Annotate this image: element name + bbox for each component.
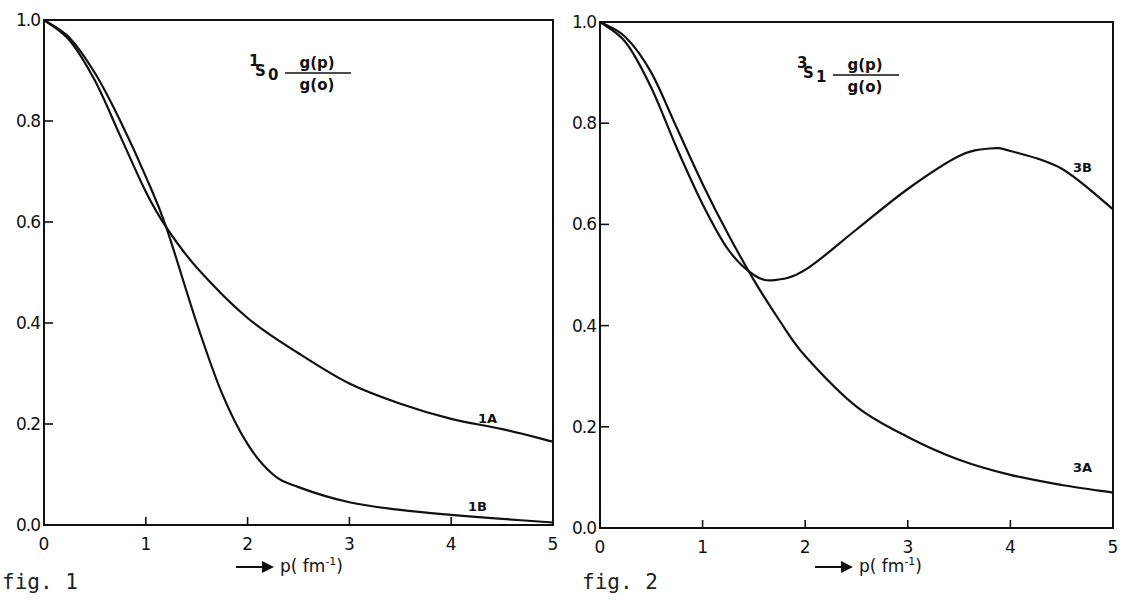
x-tick-label: 4 [446,534,457,554]
svg-text:S: S [803,64,814,82]
x-tick-label: 1 [697,537,708,557]
plot-title: 1S0g(p)g(o) [249,52,351,94]
svg-text:g(o): g(o) [848,78,883,96]
plot-title: 3S1g(p)g(o) [797,54,899,96]
svg-text:g(o): g(o) [300,76,335,94]
svg-text:p( fm-1): p( fm-1) [859,555,922,576]
x-tick-label: 4 [1005,537,1016,557]
fig-2-caption: fig. 2 [582,570,658,594]
y-tick-label: 0.8 [572,113,596,133]
plot-frame [44,20,553,525]
plot-panel-2: 0123450.00.20.40.60.81.03A3B3S1g(p)g(o)p… [572,12,1118,576]
x-axis-label: p( fm-1) [815,555,922,576]
svg-text:1: 1 [816,68,826,86]
curve-label-3B: 3B [1073,160,1092,175]
y-tick-label: 1.0 [572,12,596,32]
arrow-right-icon [262,561,274,573]
y-tick-label: 0.4 [16,313,40,333]
x-tick-label: 0 [595,537,606,557]
curve-label-1B: 1B [468,499,487,514]
y-tick-label: 1.0 [16,10,40,30]
y-tick-label: 0.0 [572,518,596,538]
x-tick-label: 2 [800,537,811,557]
x-tick-label: 0 [39,534,50,554]
x-tick-label: 5 [1108,537,1119,557]
arrow-right-icon [841,561,853,573]
x-tick-label: 2 [242,534,253,554]
svg-text:0: 0 [268,66,278,84]
svg-text:p( fm-1): p( fm-1) [280,555,343,576]
chart-canvas: 0123450.00.20.40.60.81.01A1B1S0g(p)g(o)p… [0,0,1128,605]
svg-text:g(p): g(p) [847,56,882,74]
plot-panel-1: 0123450.00.20.40.60.81.01A1B1S0g(p)g(o)p… [16,10,558,576]
curve-1B [44,20,553,523]
x-tick-label: 3 [902,537,913,557]
svg-text:S: S [255,62,266,80]
y-tick-label: 0.6 [16,212,40,232]
curve-1A [44,20,553,442]
y-tick-label: 0.2 [572,417,596,437]
x-tick-label: 1 [140,534,151,554]
y-tick-label: 0.2 [16,414,40,434]
x-tick-label: 3 [344,534,355,554]
x-tick-label: 5 [548,534,559,554]
y-tick-label: 0.4 [572,316,596,336]
plot-frame [600,22,1113,528]
x-axis-label: p( fm-1) [236,555,343,576]
y-tick-label: 0.8 [16,111,40,131]
curve-label-3A: 3A [1073,460,1092,475]
curve-label-1A: 1A [478,411,497,426]
svg-text:g(p): g(p) [299,54,334,72]
y-tick-label: 0.0 [16,515,40,535]
y-tick-label: 0.6 [572,214,596,234]
fig-1-caption: fig. 1 [2,570,78,594]
